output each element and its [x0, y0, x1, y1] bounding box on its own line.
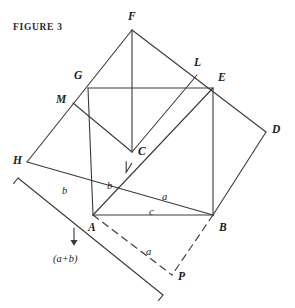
bracket-tick-end	[159, 295, 163, 300]
edge-H-F	[27, 30, 132, 162]
bracket-main	[18, 178, 163, 295]
right-angle-marker	[126, 161, 132, 172]
edge-F-D	[132, 30, 266, 132]
vertex-label-H: H	[13, 155, 22, 167]
figure-container: FIGURE 3 FLEGMDCHABP bbaca (a+b)	[0, 0, 295, 308]
vertex-label-P: P	[178, 271, 185, 283]
edge-B-H	[27, 162, 213, 215]
edge-D-B	[213, 132, 266, 215]
side-label-a-dashed: a	[146, 247, 151, 258]
vertex-label-M: M	[56, 94, 66, 106]
edge-M-C	[73, 103, 132, 152]
dashed-edge-A-P	[93, 215, 172, 275]
vertex-label-D: D	[272, 124, 280, 136]
vertex-label-E: E	[218, 72, 226, 84]
vertex-label-G: G	[74, 70, 82, 82]
vertex-label-C: C	[138, 146, 146, 158]
measure-bracket	[14, 178, 163, 300]
arrow-head	[71, 240, 78, 246]
dashed-edges-group	[93, 215, 213, 275]
down-arrow-icon	[71, 228, 78, 246]
side-label-b-inner: b	[107, 181, 112, 192]
geometry-canvas	[0, 0, 295, 308]
vertex-label-F: F	[128, 11, 136, 23]
dashed-edge-B-P	[172, 215, 213, 275]
edge-A-E	[93, 88, 213, 215]
bracket-tick-start	[14, 178, 18, 183]
edge-C-L	[132, 75, 197, 152]
side-label-a-inner: a	[162, 192, 167, 203]
vertex-label-A: A	[88, 222, 96, 234]
right-angle-square	[126, 161, 132, 172]
vertex-label-L: L	[194, 57, 201, 69]
side-label-b-left: b	[62, 186, 67, 197]
edge-A-G	[88, 88, 93, 215]
side-label-c-base: c	[149, 207, 154, 218]
vertex-label-B: B	[219, 222, 227, 234]
sum-length-label: (a+b)	[53, 254, 78, 265]
